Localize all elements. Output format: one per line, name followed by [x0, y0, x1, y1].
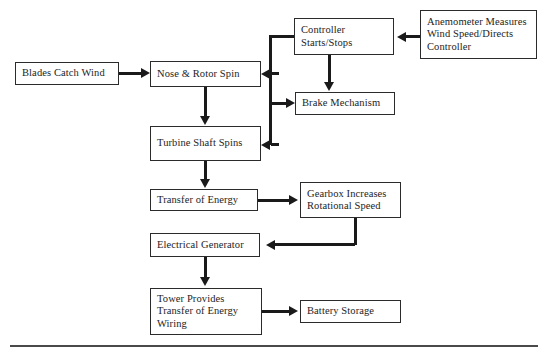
connector-transfer-to-gearbox	[258, 199, 290, 202]
connector-gearbox-to-generator	[275, 243, 355, 246]
node-turbine-shaft-spins[interactable]: Turbine Shaft Spins	[150, 126, 261, 161]
node-gearbox-increases-rotational-speed[interactable]: Gearbox Increases Rotational Speed	[300, 182, 401, 218]
node-nose-and-rotor-spin[interactable]: Nose & Rotor Spin	[150, 61, 261, 87]
node-label: Nose & Rotor Spin	[157, 68, 254, 81]
node-tower-provides-transfer-of-energy-wiring[interactable]: Tower Provides Transfer of Energy Wiring	[150, 288, 262, 335]
connector-blades-to-nose	[119, 72, 143, 75]
node-controller-starts-stops[interactable]: Controller Starts/Stops	[294, 18, 394, 55]
arrowhead-gearbox-to-generator	[266, 240, 275, 250]
node-label-line-1: Tower Provides	[157, 293, 255, 306]
node-label: Battery Storage	[307, 305, 394, 318]
arrowhead-blades-to-nose	[141, 68, 150, 78]
arrowhead-generator-to-tower	[200, 277, 210, 286]
node-label: Brake Mechanism	[302, 97, 388, 110]
connector-anemometer-to-controller	[406, 35, 421, 38]
node-label-line-3: Wiring	[157, 318, 255, 331]
connector-trunk-to-turbine-shaft	[271, 143, 279, 146]
arrowhead-trunk-to-brake	[286, 98, 295, 108]
arrowhead-trunk-to-nose	[261, 69, 270, 79]
connector-trunk-to-nose	[271, 72, 279, 75]
connector-controller-trunk-top	[269, 35, 295, 38]
arrowhead-turbine-shaft-to-transfer	[200, 179, 210, 188]
node-label: Electrical Generator	[157, 239, 253, 252]
connector-generator-to-tower	[204, 257, 207, 278]
arrowhead-anemometer-to-controller	[397, 32, 406, 42]
connector-nose-to-turbine-shaft	[204, 87, 207, 117]
footer-divider	[10, 345, 538, 347]
connector-turbine-shaft-to-transfer	[204, 161, 207, 180]
node-label: Transfer of Energy	[157, 194, 251, 207]
node-electrical-generator[interactable]: Electrical Generator	[150, 233, 260, 257]
connector-controller-trunk-vertical	[269, 35, 272, 145]
arrowhead-tower-to-battery	[289, 306, 298, 316]
node-label-line-2: Starts/Stops	[301, 37, 387, 50]
node-label: Turbine Shaft Spins	[157, 137, 254, 150]
flowchart-canvas: Blades Catch Wind Nose & Rotor Spin Turb…	[0, 0, 547, 357]
connector-gearbox-down	[354, 218, 357, 245]
connector-controller-to-brake	[328, 55, 331, 83]
connector-tower-to-battery	[262, 310, 290, 313]
arrowhead-controller-to-brake	[324, 82, 334, 91]
node-label: Blades Catch Wind	[22, 67, 112, 80]
node-label-line-3: Controller	[427, 41, 530, 54]
node-brake-mechanism[interactable]: Brake Mechanism	[295, 92, 395, 115]
node-blades-catch-wind[interactable]: Blades Catch Wind	[15, 62, 119, 85]
arrowhead-trunk-to-turbine-shaft	[261, 140, 270, 150]
node-battery-storage[interactable]: Battery Storage	[300, 300, 401, 323]
node-label-line-1: Controller	[301, 24, 387, 37]
node-anemometer-measures-wind-speed-directs-controller[interactable]: Anemometer Measures Wind Speed/Directs C…	[420, 10, 537, 59]
arrowhead-transfer-to-gearbox	[289, 195, 298, 205]
node-transfer-of-energy[interactable]: Transfer of Energy	[150, 189, 258, 211]
node-label-line-1: Anemometer Measures	[427, 16, 530, 29]
node-label-line-2: Rotational Speed	[307, 200, 394, 213]
node-label-line-2: Transfer of Energy	[157, 305, 255, 318]
node-label-line-2: Wind Speed/Directs	[427, 28, 530, 41]
arrowhead-nose-to-turbine-shaft	[200, 116, 210, 125]
node-label-line-1: Gearbox Increases	[307, 188, 394, 201]
connector-trunk-to-brake	[271, 102, 287, 105]
